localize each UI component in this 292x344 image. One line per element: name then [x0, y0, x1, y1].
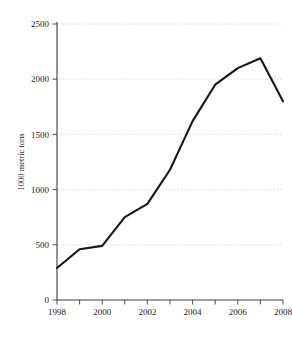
y-tick-label-2500: 2500 — [31, 19, 50, 29]
line-chart-figure: 2500 2000 1500 1000 500 0 1000 metric to… — [0, 0, 292, 344]
chart-background — [0, 0, 292, 344]
y-tick-label-500: 500 — [36, 240, 50, 250]
x-tick-label-2008: 2008 — [274, 307, 292, 317]
x-tick-label-2004: 2004 — [184, 307, 203, 317]
chart-canvas: 2500 2000 1500 1000 500 0 1000 metric to… — [0, 0, 292, 344]
y-tick-label-2000: 2000 — [31, 74, 50, 84]
x-tick-label-2002: 2002 — [138, 307, 156, 317]
x-tick-label-2000: 2000 — [93, 307, 112, 317]
x-tick-label-1998: 1998 — [48, 307, 67, 317]
y-tick-label-0: 0 — [45, 295, 50, 305]
y-tick-label-1500: 1500 — [31, 130, 50, 140]
x-tick-label-2006: 2006 — [229, 307, 248, 317]
y-tick-label-1000: 1000 — [31, 185, 50, 195]
y-axis-title: 1000 metric tons — [16, 133, 26, 190]
